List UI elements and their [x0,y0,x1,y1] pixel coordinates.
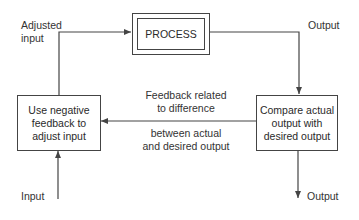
process-label: PROCESS [145,28,196,40]
right-box-line1: Compare actual [260,104,334,117]
left-box-line3: adjust input [28,130,89,143]
right-box-line3: desired output [260,130,334,143]
adjusted-input-label: Adjusted input [21,19,62,44]
input-label: Input [21,190,44,203]
feedback-below-line1: between actual [128,127,244,140]
feedback-below-line2: and desired output [128,140,244,153]
feedback-above-line2: to difference [133,102,239,115]
right-box-line2: output with [260,117,334,130]
output-bottom-label: Output [307,190,339,203]
feedback-label-below: between actual and desired output [128,127,244,152]
negative-feedback-box: Use negative feedback to adjust input [17,95,101,151]
left-box-line1: Use negative [28,104,89,117]
adjusted-input-line2: input [21,32,62,45]
adjusted-input-line1: Adjusted [21,19,62,32]
compare-output-box: Compare actual output with desired outpu… [256,95,338,151]
process-box: PROCESS [137,18,205,50]
output-arrow-top [210,32,299,94]
left-box-line2: feedback to [28,117,89,130]
feedback-above-line1: Feedback related [133,89,239,102]
feedback-label-above: Feedback related to difference [133,89,239,114]
output-top-label: Output [308,19,340,32]
adjusted-input-arrow [59,32,131,95]
